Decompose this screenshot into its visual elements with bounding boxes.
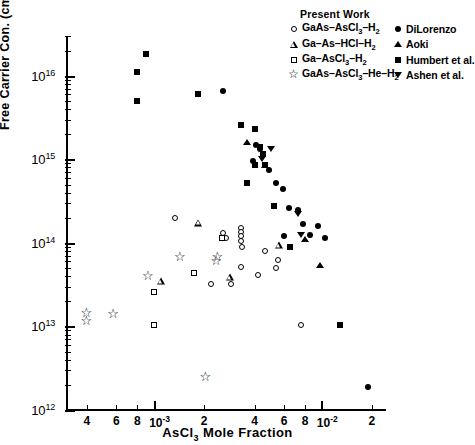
data-point bbox=[298, 322, 304, 328]
data-point bbox=[271, 203, 277, 209]
legend-item-label: DiLorenzo bbox=[406, 23, 456, 35]
data-point bbox=[316, 262, 324, 268]
data-point bbox=[262, 248, 268, 254]
legend-item-label: Aoki bbox=[406, 38, 428, 50]
data-point bbox=[191, 270, 197, 276]
legend-title: Present Work bbox=[300, 8, 453, 20]
y-tick-minor bbox=[65, 251, 71, 252]
filled-circle-icon bbox=[392, 26, 403, 32]
data-point bbox=[286, 205, 292, 211]
data-point bbox=[280, 186, 286, 192]
y-tick-label: 1013 bbox=[0, 318, 55, 334]
data-point: ☆ bbox=[113, 314, 125, 323]
data-point bbox=[315, 223, 321, 229]
x-tick-minor bbox=[116, 405, 117, 410]
x-tick-label: 8 bbox=[134, 414, 141, 428]
data-point: ☆ bbox=[217, 257, 229, 266]
y-tick-minor bbox=[65, 247, 71, 248]
data-point bbox=[257, 144, 263, 150]
filled-down-triangle-icon bbox=[392, 72, 403, 78]
legend-item: ☆GaAs–AsCl3–He–H2 bbox=[288, 69, 392, 81]
data-point bbox=[322, 235, 328, 241]
y-tick-minor bbox=[65, 101, 71, 102]
data-point bbox=[195, 91, 201, 97]
y-tick-minor bbox=[65, 256, 71, 257]
y-tick-minor bbox=[65, 385, 71, 386]
y-tick-minor bbox=[65, 109, 71, 110]
x-tick-major bbox=[321, 401, 323, 410]
legend-item: Aoki bbox=[392, 38, 475, 50]
x-tick-major bbox=[154, 401, 156, 410]
data-point bbox=[255, 272, 261, 278]
y-tick-minor bbox=[65, 268, 71, 269]
y-tick-minor bbox=[65, 89, 71, 90]
y-tick-minor bbox=[65, 203, 71, 204]
y-tick-minor bbox=[65, 339, 71, 340]
legend-item: Ga–AsCl3–H2 bbox=[288, 54, 392, 66]
legend-item: DiLorenzo bbox=[392, 23, 475, 35]
data-point bbox=[244, 180, 250, 186]
y-tick-major bbox=[65, 243, 75, 245]
data-point bbox=[273, 180, 279, 186]
x-tick-minor bbox=[255, 405, 256, 410]
legend-item: Ashen et al. bbox=[392, 69, 475, 81]
data-point: ☆ bbox=[180, 257, 192, 266]
x-tick-label: 2 bbox=[368, 414, 375, 428]
y-tick-minor bbox=[65, 301, 71, 302]
legend-item-label: Ashen et al. bbox=[406, 69, 464, 81]
data-point bbox=[287, 244, 293, 250]
x-tick-label: 8 bbox=[302, 414, 309, 428]
y-tick-minor bbox=[65, 352, 71, 353]
filled-square-icon bbox=[392, 57, 403, 63]
x-tick-label: 6 bbox=[281, 414, 288, 428]
y-tick-major bbox=[65, 76, 75, 78]
data-point: ☆ bbox=[148, 275, 160, 284]
y-tick-minor bbox=[65, 134, 71, 135]
x-tick-minor bbox=[87, 405, 88, 410]
legend-item-label: Ga–AsCl3–H2 bbox=[302, 52, 366, 67]
x-tick-minor bbox=[137, 405, 138, 410]
legend-item: Ga–As–HCl–H2 bbox=[288, 38, 392, 50]
y-tick-minor bbox=[65, 172, 71, 173]
legend-item: GaAs–AsCl3–H2 bbox=[288, 23, 392, 35]
data-point bbox=[275, 257, 281, 263]
y-tick-minor bbox=[65, 287, 71, 288]
y-axis-label: Free Carrier Con. (cm-3) at 77 K bbox=[0, 0, 12, 130]
data-point bbox=[267, 146, 275, 152]
y-tick-major bbox=[65, 410, 75, 412]
open-triangle-icon bbox=[288, 41, 299, 48]
y-tick-label: 1016 bbox=[0, 68, 55, 84]
x-axis-label: AsCl3 Mole Fraction bbox=[0, 425, 455, 443]
data-point bbox=[275, 241, 283, 248]
data-point bbox=[220, 88, 226, 94]
data-point bbox=[281, 233, 287, 239]
open-circle-icon bbox=[288, 26, 299, 32]
open-star-icon: ☆ bbox=[288, 69, 299, 80]
y-tick-minor bbox=[65, 51, 71, 52]
data-point bbox=[226, 274, 234, 281]
y-tick-minor bbox=[65, 345, 71, 346]
data-point bbox=[134, 98, 140, 104]
data-point bbox=[219, 235, 225, 241]
data-point bbox=[238, 122, 244, 128]
open-square-icon bbox=[288, 57, 299, 63]
y-tick-minor bbox=[65, 330, 71, 331]
data-point bbox=[297, 232, 305, 238]
legend-item-label: GaAs–AsCl3–H2 bbox=[302, 21, 380, 36]
data-point bbox=[238, 264, 244, 270]
legend-item-label: Ga–As–HCl–H2 bbox=[302, 37, 376, 52]
data-point: ☆ bbox=[86, 320, 98, 329]
data-point: ☆ bbox=[205, 377, 217, 386]
data-point bbox=[172, 215, 178, 221]
y-tick-minor bbox=[65, 167, 71, 168]
data-point bbox=[134, 69, 140, 75]
data-point bbox=[243, 139, 251, 145]
y-tick-minor bbox=[65, 36, 71, 37]
legend-item: Humbert et al. bbox=[392, 54, 475, 66]
y-tick-minor bbox=[65, 370, 71, 371]
data-point bbox=[262, 162, 268, 168]
data-point bbox=[294, 211, 302, 217]
data-point bbox=[151, 322, 157, 328]
data-point bbox=[208, 281, 214, 287]
